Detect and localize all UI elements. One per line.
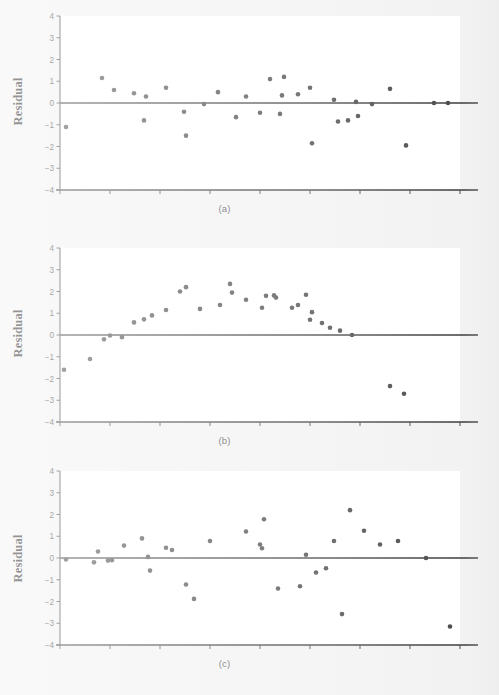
y-tick-label: 4 [49, 12, 54, 21]
data-point [230, 290, 235, 295]
data-point [192, 597, 197, 602]
data-point [64, 557, 69, 562]
data-point [178, 289, 183, 294]
panel-caption-a: (a) [0, 203, 474, 214]
data-point [396, 539, 401, 544]
data-point [148, 568, 153, 573]
data-point [260, 546, 265, 551]
data-point [290, 306, 295, 311]
y-tick-label: −3 [45, 396, 55, 405]
data-point [184, 582, 189, 587]
data-point [64, 125, 69, 130]
data-point [102, 337, 107, 342]
data-point [388, 87, 393, 92]
data-point [96, 549, 101, 554]
scatter-svg-c: 43210−1−2−3−4 [38, 467, 483, 657]
data-point [268, 77, 273, 82]
data-point [304, 552, 309, 557]
data-point [314, 570, 319, 575]
data-point [142, 118, 147, 123]
data-point [182, 109, 187, 114]
data-point [184, 285, 189, 290]
data-point [310, 141, 315, 146]
data-point [258, 110, 263, 115]
y-tick-label: −4 [45, 641, 55, 650]
data-point [244, 529, 249, 534]
data-point [142, 317, 147, 322]
data-point [432, 101, 437, 106]
data-point [350, 333, 355, 338]
data-point [282, 75, 287, 80]
plot-area-a: 43210−1−2−3−4 [38, 12, 483, 202]
y-tick-label: −2 [45, 143, 55, 152]
data-point [88, 357, 93, 362]
panel-caption-b: (b) [0, 435, 474, 446]
scatter-svg-a: 43210−1−2−3−4 [38, 12, 483, 202]
y-tick-label: 2 [49, 511, 54, 520]
figure-page: Residual 43210−1−2−3−4 (a) Residual 4321… [0, 0, 499, 695]
data-point [108, 333, 113, 338]
data-point [122, 543, 127, 548]
data-point [280, 93, 285, 98]
y-tick-label: 3 [49, 489, 54, 498]
data-point [100, 76, 105, 81]
data-point [354, 100, 359, 105]
data-point [216, 90, 221, 95]
data-point [296, 303, 301, 308]
data-point [184, 133, 189, 138]
data-point [332, 97, 337, 102]
y-axis-label-a: Residual [11, 62, 26, 142]
y-axis-label-b: Residual [11, 294, 26, 374]
data-point [346, 118, 351, 123]
data-point [348, 508, 353, 513]
y-tick-label: 0 [49, 99, 54, 108]
y-tick-label: −4 [45, 418, 55, 427]
scatter-svg-b: 43210−1−2−3−4 [38, 244, 483, 434]
data-point [424, 556, 429, 561]
data-point [150, 313, 155, 318]
data-point [208, 539, 213, 544]
data-point [264, 294, 269, 299]
data-point [198, 307, 203, 312]
y-tick-label: 1 [49, 532, 54, 541]
data-point [218, 303, 223, 308]
data-point [164, 545, 169, 550]
plot-area-b: 43210−1−2−3−4 [38, 244, 483, 434]
data-point [378, 542, 383, 547]
data-point [402, 391, 407, 396]
data-point [144, 94, 149, 99]
data-point [388, 384, 393, 389]
data-point [276, 586, 281, 591]
data-point [244, 297, 249, 302]
panel-b: Residual 43210−1−2−3−4 (b) [0, 232, 499, 464]
data-point [308, 317, 313, 322]
panel-c: Residual 43210−1−2−3−4 (c) [0, 455, 499, 695]
plot-area-c: 43210−1−2−3−4 [38, 467, 483, 657]
data-point [296, 92, 301, 97]
data-point [62, 368, 67, 373]
data-point [362, 529, 367, 534]
data-point [234, 115, 239, 120]
y-tick-label: 3 [49, 34, 54, 43]
data-point [370, 102, 375, 107]
data-point [304, 292, 309, 297]
data-point [328, 326, 333, 331]
y-tick-label: 3 [49, 266, 54, 275]
y-tick-label: −2 [45, 598, 55, 607]
data-point [164, 85, 169, 90]
data-point [446, 101, 451, 106]
data-point [132, 91, 137, 96]
data-point [404, 143, 409, 148]
data-point [112, 88, 117, 93]
y-tick-label: 4 [49, 244, 54, 253]
y-tick-label: 2 [49, 288, 54, 297]
data-point [448, 624, 453, 629]
panel-caption-c: (c) [0, 658, 474, 669]
data-point [338, 328, 343, 333]
y-tick-label: 1 [49, 77, 54, 86]
data-point [278, 112, 283, 117]
data-point [324, 566, 329, 571]
data-point [146, 555, 151, 560]
data-point [260, 306, 265, 311]
data-point [170, 548, 175, 553]
